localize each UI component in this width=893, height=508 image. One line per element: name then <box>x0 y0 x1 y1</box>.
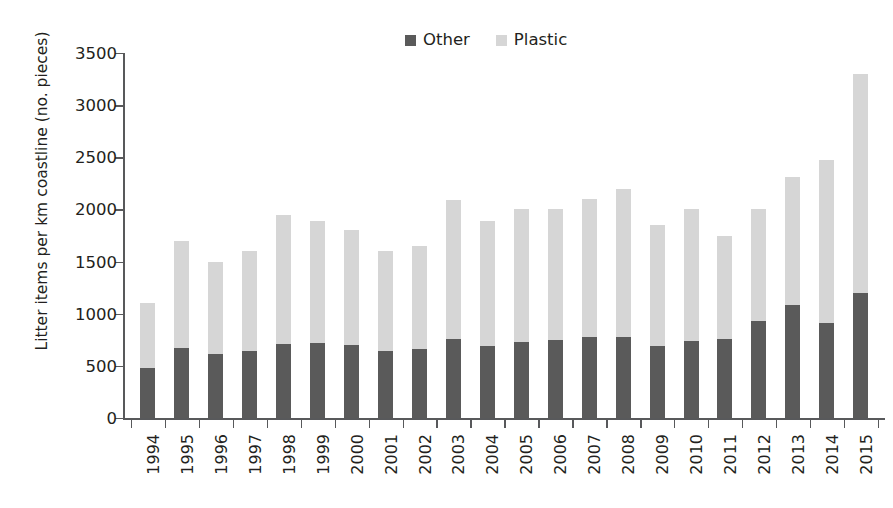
x-axis-tick-mark <box>165 420 166 428</box>
bar-2003[interactable] <box>446 200 461 418</box>
x-axis-tick-mark <box>436 420 437 428</box>
bar-1995[interactable] <box>174 241 189 418</box>
legend-entry-plastic: Plastic <box>496 32 567 49</box>
x-axis-tick-mark <box>403 420 404 428</box>
x-axis-label-2000: 2000 <box>350 434 366 475</box>
plot-area: 0500100015002000250030003500 <box>123 53 885 418</box>
bar-segment-plastic <box>412 246 427 349</box>
bar-segment-other <box>344 345 359 418</box>
x-axis-tick-mark <box>810 420 811 428</box>
bar-2002[interactable] <box>412 246 427 418</box>
bar-segment-plastic <box>853 74 868 293</box>
x-axis-tick-mark <box>131 420 132 428</box>
bar-segment-plastic <box>446 200 461 339</box>
bar-segment-other <box>684 341 699 418</box>
x-axis-tick-mark <box>199 420 200 428</box>
bar-segment-other <box>650 346 665 418</box>
y-axis-tick-label: 2000 <box>75 200 117 219</box>
bar-segment-other <box>582 337 597 418</box>
x-axis-label-2008: 2008 <box>621 434 637 475</box>
bar-segment-plastic <box>717 236 732 340</box>
x-axis-label-2007: 2007 <box>587 434 603 475</box>
bar-segment-plastic <box>650 225 665 346</box>
x-axis-label-2004: 2004 <box>485 434 501 475</box>
bar-2011[interactable] <box>717 236 732 418</box>
bar-segment-other <box>548 340 563 418</box>
x-axis-tick-mark <box>470 420 471 428</box>
y-axis-tick-label: 1000 <box>75 304 117 323</box>
x-axis-label-1994: 1994 <box>146 434 162 475</box>
bar-2012[interactable] <box>751 209 766 418</box>
x-axis-tick-mark <box>504 420 505 428</box>
x-axis-tick-mark <box>708 420 709 428</box>
y-axis-tick-label: 1500 <box>75 252 117 271</box>
y-axis-tick-label: 500 <box>86 356 118 375</box>
bar-segment-plastic <box>751 209 766 321</box>
bar-2009[interactable] <box>650 225 665 418</box>
bar-2000[interactable] <box>344 230 359 418</box>
legend-label-plastic: Plastic <box>514 32 567 49</box>
bar-segment-other <box>616 337 631 418</box>
bar-2001[interactable] <box>378 251 393 418</box>
bar-segment-plastic <box>480 221 495 346</box>
bar-2004[interactable] <box>480 221 495 418</box>
y-axis-tick-label: 0 <box>107 409 118 428</box>
x-axis-tick-mark <box>844 420 845 428</box>
bar-segment-other <box>819 323 834 418</box>
y-axis-tick-label: 3500 <box>75 44 117 63</box>
x-axis-label-2013: 2013 <box>791 434 807 475</box>
bar-segment-other <box>446 339 461 418</box>
bar-1996[interactable] <box>208 262 223 418</box>
bar-segment-other <box>853 293 868 418</box>
x-axis-label-2014: 2014 <box>825 434 841 475</box>
bar-2015[interactable] <box>853 74 868 418</box>
bar-segment-other <box>242 351 257 418</box>
bar-segment-plastic <box>310 221 325 343</box>
bar-2008[interactable] <box>616 189 631 418</box>
bar-segment-plastic <box>378 251 393 351</box>
bar-2014[interactable] <box>819 160 834 418</box>
bar-2005[interactable] <box>514 209 529 418</box>
x-axis-label-2005: 2005 <box>519 434 535 475</box>
y-axis-tick-label: 3000 <box>75 96 117 115</box>
x-axis-label-1999: 1999 <box>316 434 332 475</box>
bar-2010[interactable] <box>684 209 699 418</box>
bar-1997[interactable] <box>242 251 257 418</box>
bar-segment-plastic <box>242 251 257 351</box>
legend-label-other: Other <box>423 32 470 49</box>
bar-2013[interactable] <box>785 177 800 418</box>
bar-segment-plastic <box>582 199 597 337</box>
x-axis-label-2011: 2011 <box>723 434 739 475</box>
x-axis-tick-mark <box>572 420 573 428</box>
x-axis-tick-mark <box>606 420 607 428</box>
bar-1999[interactable] <box>310 221 325 418</box>
bar-segment-plastic <box>208 262 223 355</box>
x-axis-label-1996: 1996 <box>214 434 230 475</box>
stacked-bar-chart: Other Plastic Litter items per km coastl… <box>0 0 893 508</box>
bar-segment-plastic <box>819 160 834 322</box>
bar-segment-plastic <box>785 177 800 305</box>
x-axis-label-2015: 2015 <box>859 434 875 475</box>
bar-1994[interactable] <box>140 303 155 418</box>
bar-2007[interactable] <box>582 199 597 418</box>
x-axis-label-1997: 1997 <box>248 434 264 475</box>
bar-1998[interactable] <box>276 215 291 418</box>
bar-segment-plastic <box>174 241 189 348</box>
bar-segment-other <box>378 351 393 418</box>
x-axis-label-2006: 2006 <box>553 434 569 475</box>
x-axis-label-2009: 2009 <box>655 434 671 475</box>
bar-2006[interactable] <box>548 209 563 418</box>
x-axis-tick-mark <box>878 420 879 428</box>
x-axis-tick-mark <box>674 420 675 428</box>
x-axis-labels: 1994199519961997199819992000200120022003… <box>123 420 885 508</box>
bar-segment-other <box>276 344 291 418</box>
bar-segment-other <box>412 349 427 418</box>
y-axis-title: Litter items per km coastline (no. piece… <box>22 0 62 445</box>
bar-segment-plastic <box>514 209 529 341</box>
bar-segment-plastic <box>548 209 563 339</box>
x-axis-tick-mark <box>301 420 302 428</box>
bar-segment-plastic <box>344 230 359 345</box>
bar-segment-other <box>174 348 189 418</box>
legend-swatch-plastic <box>496 35 507 46</box>
bar-segment-other <box>140 368 155 418</box>
